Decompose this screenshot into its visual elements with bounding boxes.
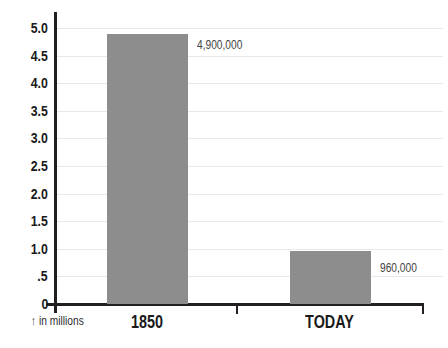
- x-axis-tick-mid: [236, 303, 238, 314]
- unit-note-text: in millions: [39, 314, 84, 329]
- y-tick-label: 3.5: [0, 102, 48, 120]
- x-category-label: TODAY: [270, 313, 390, 331]
- y-tick-label: 0: [0, 295, 48, 313]
- y-tick-label: 1.5: [0, 212, 48, 230]
- y-tick-label: 3.0: [0, 129, 48, 147]
- x-category-label: 1850: [87, 313, 207, 331]
- axis-unit-note: ↑in millions: [31, 313, 91, 329]
- y-tick-label: 4.0: [0, 74, 48, 92]
- y-axis-line: [54, 12, 57, 313]
- up-arrow-icon: ↑: [31, 313, 36, 328]
- y-tick-label: 5.0: [0, 19, 48, 37]
- bar-chart: 0.51.01.52.02.53.03.54.04.55.0 4,900,000…: [0, 0, 448, 348]
- y-tick-label: .5: [0, 267, 48, 285]
- bar-value-label: 960,000: [380, 262, 423, 274]
- bar-today: [290, 251, 371, 304]
- y-tick-label: 4.5: [0, 47, 48, 65]
- x-axis-tick-end: [422, 303, 424, 314]
- y-tick-label: 2.5: [0, 157, 48, 175]
- bar-1850: [107, 34, 188, 304]
- bar-value-label: 4,900,000: [197, 39, 250, 51]
- gridline: [57, 28, 443, 29]
- y-tick-label: 2.0: [0, 185, 48, 203]
- y-tick-label: 1.0: [0, 240, 48, 258]
